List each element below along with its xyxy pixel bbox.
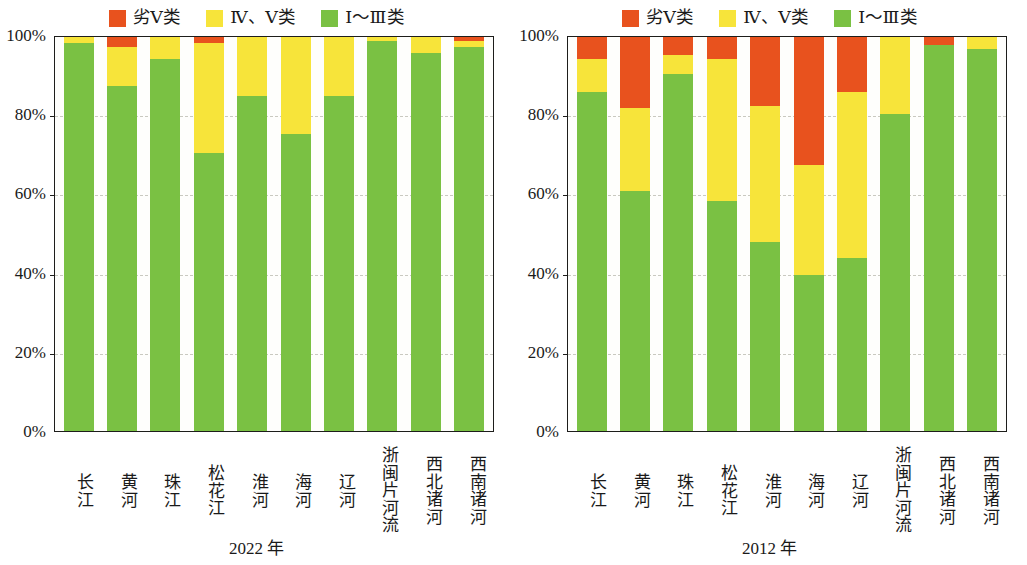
bar-segment-good: [237, 96, 267, 431]
bar-segment-good: [620, 191, 650, 431]
bar-segment-good: [411, 53, 441, 431]
bar-segment-mid: [750, 106, 780, 242]
caption-2022: 2022 年: [0, 534, 513, 559]
bar-segment-mid: [411, 37, 441, 53]
bars-2012: [568, 37, 1006, 431]
bar-淮河: [750, 37, 780, 431]
legend-label-mid: Ⅳ、Ⅴ类: [230, 9, 295, 27]
bar-辽河: [324, 37, 354, 431]
bar-segment-mid: [107, 47, 137, 86]
y-tick-label-100: 100%: [519, 26, 559, 46]
y-tick-label-0: 0%: [536, 422, 559, 442]
y-tick-mark: [563, 195, 568, 196]
caption-2012: 2012 年: [513, 534, 1026, 559]
legend-item-mid: Ⅳ、Ⅴ类: [206, 9, 295, 27]
x-tick-label-珠江: 珠江: [150, 434, 180, 539]
y-axis-2022: 100%80%60%40%20%0%: [0, 34, 52, 434]
x-tick-label-松花江: 松花江: [194, 434, 224, 539]
bar-segment-mid: [620, 108, 650, 191]
x-axis-2022: 长江黄河珠江松花江淮河海河辽河浙闽片河流西北诸河西南诸河: [54, 434, 494, 544]
plot-area-2022: [54, 36, 494, 432]
x-tick-label-松花江: 松花江: [707, 434, 737, 539]
x-tick-label-长江: 长江: [576, 434, 606, 539]
y-tick-label-20: 20%: [528, 343, 559, 363]
bar-segment-mid: [880, 37, 910, 114]
x-tick-label-西北诸河: 西北诸河: [412, 434, 442, 539]
bar-segment-good: [324, 96, 354, 431]
bar-segment-good: [880, 114, 910, 431]
x-tick-label-黄河: 黄河: [106, 434, 136, 539]
legend-swatch-bad: [622, 10, 639, 27]
legend-item-good: Ⅰ～Ⅲ类: [834, 9, 917, 27]
bar-segment-bad: [663, 37, 693, 55]
bar-浙闽片河流: [880, 37, 910, 431]
panel-2012: 劣Ⅴ类Ⅳ、Ⅴ类Ⅰ～Ⅲ类 100%80%60%40%20%0% 长江黄河珠江松花江…: [513, 0, 1026, 565]
legend-swatch-mid: [719, 10, 736, 27]
legend-swatch-bad: [109, 10, 126, 27]
y-tick-mark: [563, 275, 568, 276]
y-axis-2012: 100%80%60%40%20%0%: [513, 34, 565, 434]
bar-segment-good: [924, 45, 954, 431]
x-tick-label-浙闽片河流: 浙闽片河流: [881, 434, 911, 539]
bar-segment-bad: [924, 37, 954, 45]
bar-segment-mid: [324, 37, 354, 96]
bar-segment-mid: [150, 37, 180, 59]
x-tick-label-西南诸河: 西南诸河: [455, 434, 485, 539]
bar-珠江: [150, 37, 180, 431]
bar-segment-good: [64, 43, 94, 431]
y-tick-mark: [50, 195, 55, 196]
legend-item-mid: Ⅳ、Ⅴ类: [719, 9, 808, 27]
x-tick-label-浙闽片河流: 浙闽片河流: [368, 434, 398, 539]
bar-segment-mid: [794, 165, 824, 275]
bar-长江: [577, 37, 607, 431]
y-tick-label-20: 20%: [15, 343, 46, 363]
legend-swatch-good: [321, 10, 338, 27]
legend-label-good: Ⅰ～Ⅲ类: [858, 9, 917, 27]
y-tick-mark: [50, 275, 55, 276]
x-axis-2012: 长江黄河珠江松花江淮河海河辽河浙闽片河流西北诸河西南诸河: [567, 434, 1007, 544]
y-tick-mark: [563, 116, 568, 117]
x-tick-label-淮河: 淮河: [750, 434, 780, 539]
bar-segment-mid: [237, 37, 267, 96]
x-tick-label-辽河: 辽河: [837, 434, 867, 539]
bar-海河: [281, 37, 311, 431]
x-tick-label-黄河: 黄河: [619, 434, 649, 539]
bar-segment-good: [281, 134, 311, 431]
bar-西北诸河: [924, 37, 954, 431]
bar-西北诸河: [411, 37, 441, 431]
plot-inner-2012: [568, 37, 1006, 431]
y-tick-label-60: 60%: [528, 184, 559, 204]
y-tick-mark: [563, 354, 568, 355]
bar-segment-bad: [577, 37, 607, 59]
legend-label-bad: 劣Ⅴ类: [646, 9, 693, 27]
bars-2022: [55, 37, 493, 431]
legend-item-good: Ⅰ～Ⅲ类: [321, 9, 404, 27]
bar-淮河: [237, 37, 267, 431]
legend-label-mid: Ⅳ、Ⅴ类: [743, 9, 808, 27]
bar-segment-bad: [837, 37, 867, 92]
bar-西南诸河: [454, 37, 484, 431]
bar-segment-good: [663, 74, 693, 431]
chart-page: 劣Ⅴ类Ⅳ、Ⅴ类Ⅰ～Ⅲ类 100%80%60%40%20%0% 长江黄河珠江松花江…: [0, 0, 1027, 565]
x-tick-label-西北诸河: 西北诸河: [925, 434, 955, 539]
bar-segment-bad: [750, 37, 780, 106]
bar-辽河: [837, 37, 867, 431]
legend-swatch-good: [834, 10, 851, 27]
bar-segment-good: [707, 201, 737, 431]
x-tick-label-海河: 海河: [794, 434, 824, 539]
legend-2022: 劣Ⅴ类Ⅳ、Ⅴ类Ⅰ～Ⅲ类: [0, 4, 513, 32]
x-tick-label-西南诸河: 西南诸河: [968, 434, 998, 539]
bar-segment-mid: [281, 37, 311, 134]
bar-segment-good: [367, 41, 397, 431]
y-tick-label-0: 0%: [23, 422, 46, 442]
bar-segment-mid: [967, 37, 997, 49]
bar-西南诸河: [967, 37, 997, 431]
bar-segment-good: [194, 153, 224, 431]
y-tick-mark: [50, 116, 55, 117]
bar-segment-good: [454, 47, 484, 431]
x-tick-label-珠江: 珠江: [663, 434, 693, 539]
bar-segment-good: [750, 242, 780, 431]
bar-segment-good: [794, 275, 824, 431]
bar-segment-good: [577, 92, 607, 431]
plot-inner-2022: [55, 37, 493, 431]
